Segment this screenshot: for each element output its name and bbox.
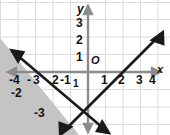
plot-svg — [0, 0, 170, 135]
x-axis-label: x — [157, 64, 163, 75]
x-tick-neg3-dash: - — [27, 74, 31, 86]
y-tick-1: 1 — [76, 51, 83, 63]
x-tick-neg3: 3 — [33, 74, 40, 86]
x-tick-2: 2 — [118, 74, 125, 86]
x-tick-neg1: -1 — [60, 74, 71, 86]
coordinate-plane-graph: y x O 3 2 1 1 -2 -3 -4 - 3 2 -1 1 2 3 4 — [0, 0, 170, 135]
y-tick-2: 2 — [76, 34, 83, 46]
y-tick-neg2: -2 — [11, 87, 22, 99]
y-tick-3: 3 — [76, 17, 83, 29]
x-tick-1: 1 — [101, 74, 108, 86]
x-tick-neg2: 2 — [52, 74, 59, 86]
x-tick-4: 4 — [149, 74, 156, 86]
y-tick-neg3: -3 — [34, 107, 45, 119]
x-tick-neg4: -4 — [9, 74, 20, 86]
origin-label: O — [91, 55, 100, 66]
y-tick-neg1: 1 — [73, 79, 79, 89]
y-axis-label: y — [77, 3, 84, 15]
x-tick-3: 3 — [136, 74, 143, 86]
